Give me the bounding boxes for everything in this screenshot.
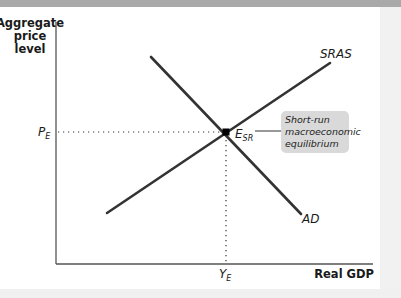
y-axis-title-line1: Aggregate (0, 16, 64, 30)
callout-line2: macroeconomic (285, 126, 362, 137)
callout-line3: equilibrium (285, 138, 339, 149)
esr-label: ESR (235, 127, 253, 143)
pe-subscript: E (45, 132, 51, 141)
ye-label: YE (219, 267, 232, 283)
x-axis-title: Real GDP (314, 267, 374, 281)
ad-label: AD (301, 212, 319, 226)
sras-label: SRAS (320, 47, 352, 61)
ye-subscript: E (226, 274, 232, 283)
as-ad-chart: Aggregate price level SRAS AD PE YE Real… (0, 0, 401, 298)
pe-label: PE (38, 125, 51, 141)
y-axis-title-line3: level (15, 42, 46, 56)
callout-line1: Short-run (285, 114, 330, 125)
equilibrium-point (223, 129, 230, 136)
y-axis-title-line2: price (14, 29, 47, 43)
esr-subscript: SR (243, 134, 254, 143)
